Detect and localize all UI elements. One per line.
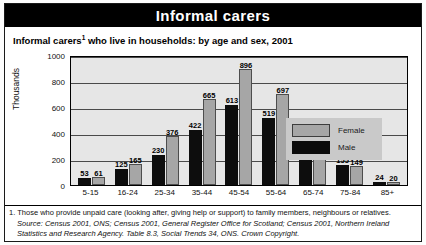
bar-group-45-54: 613896 (222, 57, 256, 185)
x-label-75-84: 75-84 (333, 188, 367, 197)
chart-page: Informal carers Informal carers1 who liv… (0, 0, 426, 245)
x-label-16-24: 16-24 (111, 188, 145, 197)
bar-value-female-85+: 20 (389, 174, 397, 183)
bar-female-25-34: 376 (166, 136, 179, 185)
x-label-55-64: 55-64 (259, 188, 293, 197)
y-tick-200: 200 (52, 156, 65, 165)
bar-male-75-84: 155 (336, 165, 349, 185)
bar-male-85+: 24 (373, 182, 386, 185)
bar-value-male-5-15: 53 (80, 169, 88, 178)
bar-value-female-35-44: 665 (203, 91, 216, 100)
footnotes: 1. Those who provide unpaid care (lookin… (9, 208, 417, 239)
legend-label-female: Female (338, 126, 365, 135)
bar-male-35-44: 422 (189, 130, 202, 185)
subtitle-pre: Informal carers (13, 35, 82, 46)
bar-male-55-64: 519 (262, 118, 275, 185)
y-axis-ticks: 10008006004002000 (28, 56, 68, 186)
bar-value-male-35-44: 422 (189, 121, 202, 130)
bar-group-25-34: 230376 (148, 57, 182, 185)
subtitle-post: who live in households: by age and sex, … (85, 35, 292, 46)
legend-row-female: Female (292, 124, 376, 137)
bar-value-male-16-24: 125 (115, 160, 128, 169)
bar-female-85+: 20 (387, 182, 400, 185)
y-tick-600: 600 (52, 104, 65, 113)
x-axis-labels: 5-1516-2425-3435-4445-5455-6465-7475-848… (70, 188, 408, 197)
bar-male-25-34: 230 (152, 155, 165, 185)
y-tick-400: 400 (52, 130, 65, 139)
chart-subtitle: Informal carers1 who live in households:… (13, 34, 293, 46)
legend-swatch-male (292, 141, 330, 154)
bar-group-35-44: 422665 (185, 57, 219, 185)
footnote-divider (5, 205, 421, 206)
legend-label-male: Male (338, 143, 355, 152)
y-tick-0: 0 (61, 182, 65, 191)
bar-value-female-16-24: 165 (129, 156, 142, 165)
x-label-65-74: 65-74 (296, 188, 330, 197)
x-label-5-15: 5-15 (74, 188, 108, 197)
bar-value-male-55-64: 519 (263, 109, 276, 118)
y-axis-label: Thousands (11, 68, 21, 110)
bar-female-35-44: 665 (203, 99, 216, 185)
x-label-35-44: 35-44 (185, 188, 219, 197)
bar-value-female-25-34: 376 (166, 128, 179, 137)
x-label-85+: 85+ (370, 188, 404, 197)
y-tick-800: 800 (52, 78, 65, 87)
footnote-1: 1. Those who provide unpaid care (lookin… (9, 208, 417, 218)
bar-value-male-25-34: 230 (152, 146, 165, 155)
legend-swatch-female (292, 124, 330, 137)
x-label-45-54: 45-54 (222, 188, 256, 197)
y-tick-1000: 1000 (47, 52, 65, 61)
bar-value-male-85+: 24 (375, 173, 383, 182)
bar-group-16-24: 125165 (111, 57, 145, 185)
chart-legend: Female Male (286, 118, 382, 160)
title-banner: Informal carers (5, 4, 421, 27)
page-title: Informal carers (156, 7, 270, 24)
bar-value-female-45-54: 896 (240, 61, 253, 70)
bar-value-female-55-64: 697 (277, 86, 290, 95)
x-label-25-34: 25-34 (148, 188, 182, 197)
bar-female-75-84: 149 (350, 166, 363, 185)
bar-male-16-24: 125 (115, 169, 128, 185)
bar-group-5-15: 5361 (75, 57, 109, 185)
bar-male-5-15: 53 (78, 178, 91, 185)
bar-female-45-54: 896 (239, 69, 252, 185)
bar-value-female-5-15: 61 (94, 169, 102, 178)
legend-row-male: Male (292, 141, 376, 154)
plot-area: Thousands 10008006004002000 536112516523… (14, 56, 412, 202)
source-note: Source: Census 2001, ONS; Census 2001, G… (9, 219, 417, 239)
bar-value-male-45-54: 613 (226, 96, 239, 105)
bar-male-45-54: 613 (225, 105, 238, 185)
bar-female-5-15: 61 (92, 177, 105, 185)
bar-female-16-24: 165 (129, 164, 142, 185)
